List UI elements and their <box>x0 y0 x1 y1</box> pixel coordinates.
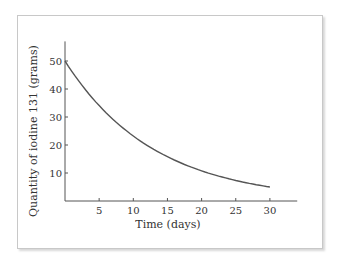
y-tick-label: 20 <box>49 140 62 151</box>
x-tick-label: 5 <box>96 205 102 216</box>
axes <box>65 41 297 201</box>
ticks: 510152025301020304050 <box>49 56 276 217</box>
y-axis-title: Quantity of iodine 131 (grams) <box>27 45 40 217</box>
x-tick-label: 15 <box>161 205 174 216</box>
x-tick-label: 25 <box>229 205 242 216</box>
y-tick-label: 50 <box>49 56 62 67</box>
x-tick-label: 30 <box>264 205 277 216</box>
x-tick-label: 10 <box>127 205 140 216</box>
decay-chart: 510152025301020304050 Time (days) Quanti… <box>0 0 337 260</box>
x-axis-title: Time (days) <box>135 218 200 231</box>
y-tick-label: 10 <box>49 168 62 179</box>
y-tick-label: 40 <box>49 84 62 95</box>
decay-curve <box>65 61 270 187</box>
x-tick-label: 20 <box>195 205 208 216</box>
y-tick-label: 30 <box>49 112 62 123</box>
